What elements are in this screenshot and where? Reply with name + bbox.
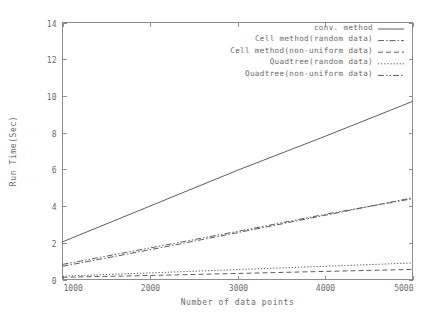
legend-label-3: Quadtree(random data) (270, 57, 373, 66)
y-tick-label: 2 (52, 240, 57, 249)
chart-container: 02468101214 10002000300040005000 Number … (0, 0, 431, 314)
y-tick-label: 14 (47, 20, 57, 29)
legend-label-4: Quadtree(non-uniform data) (245, 69, 373, 78)
y-tick-label: 4 (52, 203, 57, 212)
y-tick-label: 0 (52, 277, 57, 286)
legend-label-0: conv. method (314, 23, 373, 32)
legend-label-1: Cell method(random data) (255, 34, 373, 43)
legend-label-2: Cell method(non-uniform data) (230, 46, 373, 55)
y-tick-label: 8 (52, 130, 57, 139)
x-tick-label: 5000 (394, 284, 413, 293)
x-tick-label: 4000 (316, 284, 335, 293)
x-tick-label: 1000 (64, 284, 83, 293)
y-tick-label: 6 (52, 166, 57, 175)
x-tick-label: 2000 (141, 284, 160, 293)
x-tick-label: 3000 (229, 284, 248, 293)
x-axis-title: Number of data points (181, 298, 295, 307)
line-chart: 02468101214 10002000300040005000 Number … (0, 0, 431, 314)
y-axis-title: Run Time(Sec) (9, 116, 18, 186)
y-tick-label: 10 (47, 93, 57, 102)
y-tick-label: 12 (47, 56, 57, 65)
